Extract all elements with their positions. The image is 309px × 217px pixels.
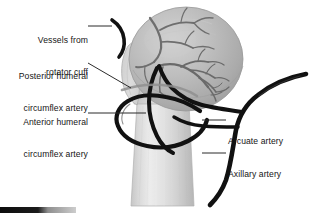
label-anterior-humeral-circumflex-artery: Anterior humeral circumflex artery xyxy=(23,96,88,181)
humeral-shaft xyxy=(131,103,194,206)
label-axillary-artery: Axillary artery xyxy=(228,148,281,201)
label-axillary-artery-line1: Axillary artery xyxy=(228,169,281,180)
label-vessels-from-rotator-cuff-line1: Vessels from xyxy=(38,35,88,46)
label-posterior-humeral-circumflex-artery-line1: Posterior humeral xyxy=(19,71,88,82)
anatomy-figure: Vessels from rotator cuff Posterior hume… xyxy=(0,0,309,217)
rotator-cuff-feeding-artery xyxy=(112,20,124,57)
label-anterior-humeral-circumflex-artery-line2: circumflex artery xyxy=(23,149,88,160)
label-anterior-humeral-circumflex-artery-line1: Anterior humeral xyxy=(23,117,88,128)
scale-bar xyxy=(0,207,76,213)
label-arcuate-artery-line1: Arcuate artery xyxy=(228,136,283,147)
